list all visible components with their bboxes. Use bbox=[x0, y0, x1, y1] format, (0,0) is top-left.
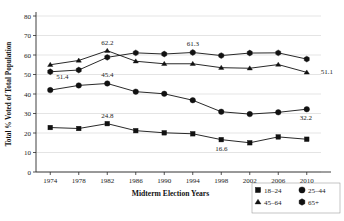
x-tick-label-1974: 1974 bbox=[43, 177, 58, 185]
data-point bbox=[218, 109, 224, 115]
legend-label: 18–24 bbox=[264, 187, 282, 195]
data-label-51.1: 51.1 bbox=[321, 68, 334, 76]
chart-canvas: 01020304050607080 1974197819821986199019… bbox=[0, 0, 344, 221]
x-tick-label-1990: 1990 bbox=[157, 177, 172, 185]
data-label-51.4: 51.4 bbox=[56, 73, 69, 81]
y-tick-label-70: 70 bbox=[24, 32, 32, 40]
data-point bbox=[304, 106, 310, 112]
data-point bbox=[275, 110, 281, 116]
y-tick-label-60: 60 bbox=[24, 52, 32, 60]
x-tick-label-2006: 2006 bbox=[271, 177, 286, 185]
data-point bbox=[133, 89, 139, 95]
data-point bbox=[47, 87, 53, 93]
x-tick-label-1982: 1982 bbox=[100, 177, 115, 185]
legend-label: 25–44 bbox=[308, 187, 326, 195]
data-label-16.6: 16.6 bbox=[215, 145, 228, 153]
y-tick-label-30: 30 bbox=[24, 110, 32, 118]
data-label-24.8: 24.8 bbox=[101, 112, 114, 120]
y-tick-label-10: 10 bbox=[24, 149, 32, 157]
legend-label: 65+ bbox=[308, 199, 319, 207]
data-point bbox=[276, 135, 281, 140]
data-point bbox=[48, 69, 53, 75]
data-point bbox=[247, 140, 252, 145]
x-tick-label-2010: 2010 bbox=[300, 177, 315, 185]
y-tick-label-50: 50 bbox=[24, 71, 32, 79]
data-label-32.2: 32.2 bbox=[300, 114, 313, 122]
data-point bbox=[247, 50, 252, 56]
data-point bbox=[247, 111, 253, 117]
legend-label: 45–64 bbox=[264, 199, 282, 207]
data-label-62.2: 62.2 bbox=[101, 39, 114, 47]
data-point bbox=[105, 54, 110, 60]
data-point bbox=[219, 53, 224, 59]
data-label-45.4: 45.4 bbox=[101, 71, 114, 79]
line-chart: 01020304050607080 1974197819821986199019… bbox=[0, 0, 344, 221]
data-point bbox=[162, 51, 167, 57]
x-tick-label-1978: 1978 bbox=[72, 177, 87, 185]
data-point bbox=[219, 137, 224, 142]
data-point bbox=[304, 137, 309, 142]
data-label-61.3: 61.3 bbox=[187, 40, 200, 48]
y-tick-label-40: 40 bbox=[24, 91, 32, 99]
x-tick-label-2002: 2002 bbox=[243, 177, 258, 185]
x-tick-label-1986: 1986 bbox=[129, 177, 144, 185]
data-point bbox=[76, 67, 81, 73]
legend-marker-square-icon bbox=[255, 187, 260, 192]
legend-marker-hexagon-icon bbox=[299, 199, 305, 206]
y-tick-label-0: 0 bbox=[28, 169, 32, 177]
data-point bbox=[104, 81, 110, 87]
y-tick-label-20: 20 bbox=[24, 130, 32, 138]
data-point bbox=[161, 91, 167, 97]
data-point bbox=[162, 131, 167, 136]
data-point bbox=[304, 56, 309, 62]
x-tick-label-1994: 1994 bbox=[186, 177, 201, 185]
data-point bbox=[48, 125, 53, 130]
data-point bbox=[190, 50, 195, 56]
y-axis-title: Total % Voted of Total Population bbox=[5, 42, 13, 147]
data-point bbox=[105, 121, 110, 126]
data-point bbox=[133, 50, 138, 56]
legend-marker-circle-icon bbox=[299, 187, 305, 193]
data-point bbox=[133, 128, 138, 133]
data-point bbox=[76, 83, 82, 89]
data-point bbox=[190, 131, 195, 136]
x-axis-title: Midterm Election Years bbox=[132, 189, 209, 198]
y-tick-label-80: 80 bbox=[24, 13, 32, 21]
data-point bbox=[190, 97, 196, 103]
x-tick-label-1998: 1998 bbox=[214, 177, 229, 185]
legend-item-65+[interactable]: 65+ bbox=[299, 199, 319, 207]
data-point bbox=[276, 50, 281, 56]
data-point bbox=[76, 126, 81, 131]
